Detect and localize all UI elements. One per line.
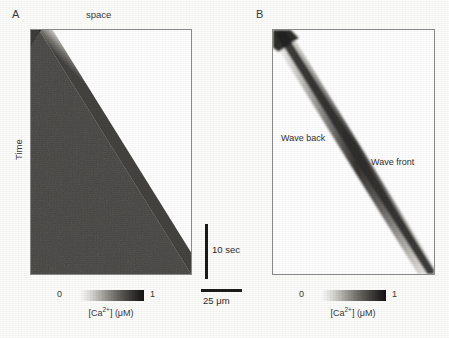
panel-b-wave-back-label: Wave back xyxy=(281,133,325,143)
panel-a-caption-suffix: ] (μM) xyxy=(110,308,134,318)
panel-a-colorbar-gradient xyxy=(78,290,144,301)
panel-b-colorbar-max-label: 1 xyxy=(392,289,397,299)
panel-b-wave-front-label: Wave front xyxy=(371,157,414,167)
panel-a-caption-prefix: [Ca xyxy=(88,308,102,318)
figure-canvas: A space Time xyxy=(0,0,449,338)
time-scalebar-label: 10 sec xyxy=(212,244,240,255)
panel-a-colorbar-max-label: 1 xyxy=(150,289,155,299)
panel-b-colorbar-caption: [Ca2+] (μM) xyxy=(293,308,413,318)
panel-b-letter: B xyxy=(256,8,264,20)
panel-b-wave-band-image xyxy=(273,30,434,274)
panel-a-letter: A xyxy=(12,8,20,20)
panel-a-y-axis-title: Time xyxy=(13,139,24,160)
panel-a-kymograph-image xyxy=(31,30,191,274)
space-scalebar-label: 25 μm xyxy=(203,295,230,306)
panel-b-colorbar-gradient xyxy=(320,290,386,301)
panel-b-plot-box: Wave back Wave front xyxy=(272,29,435,275)
panel-a-plot-box xyxy=(30,29,192,275)
space-scalebar xyxy=(201,289,242,292)
panel-b-caption-suffix: ] (μM) xyxy=(352,308,376,318)
panel-b-caption-charge: 2+ xyxy=(344,306,351,313)
panel-b-colorbar-min-label: 0 xyxy=(299,289,304,299)
time-scalebar xyxy=(205,224,208,279)
panel-b-caption-prefix: [Ca xyxy=(330,308,344,318)
panel-a-x-axis-title: space xyxy=(86,9,111,20)
panel-a-colorbar-min-label: 0 xyxy=(57,289,62,299)
panel-a-caption-charge: 2+ xyxy=(102,306,109,313)
panel-a-colorbar-caption: [Ca2+] (μM) xyxy=(51,308,171,318)
